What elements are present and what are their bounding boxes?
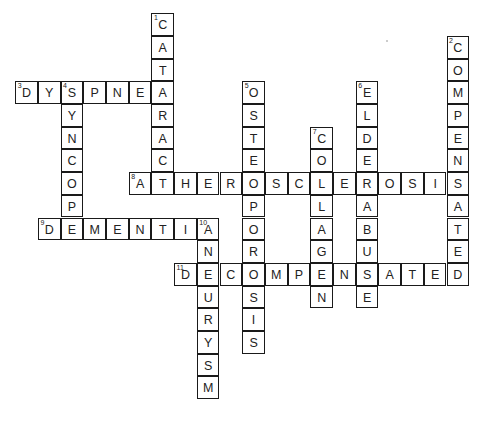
cell-letter: C [289,177,310,191]
crossword-cell[interactable]: P [83,81,106,104]
crossword-cell[interactable]: E [447,127,470,150]
crossword-cell[interactable]: 11D [174,263,197,286]
crossword-cell[interactable]: S [401,172,424,195]
crossword-cell[interactable]: I [174,218,197,241]
crossword-cell[interactable]: S [197,354,220,377]
crossword-cell[interactable]: T [151,218,174,241]
crossword-cell[interactable]: I [242,308,265,331]
crossword-cell[interactable]: A [447,195,470,218]
crossword-cell[interactable]: E [333,172,356,195]
crossword-cell[interactable]: N [310,286,333,309]
crossword-cell[interactable]: L [310,195,333,218]
crossword-cell[interactable]: E [356,149,379,172]
crossword-cell[interactable]: C [220,263,243,286]
crossword-cell[interactable]: E [242,149,265,172]
crossword-cell[interactable]: C [151,149,174,172]
crossword-cell[interactable]: R [356,172,379,195]
crossword-cell[interactable]: P [288,263,311,286]
crossword-cell[interactable]: A [151,81,174,104]
crossword-cell[interactable]: 2C [447,36,470,59]
crossword-cell[interactable]: S [242,331,265,354]
crossword-cell[interactable]: B [356,218,379,241]
crossword-cell[interactable]: A [310,218,333,241]
crossword-cell[interactable]: R [220,172,243,195]
crossword-cell[interactable]: Y [38,81,61,104]
crossword-cell[interactable]: E [129,81,152,104]
crossword-cell[interactable]: C [288,172,311,195]
crossword-cell[interactable]: O [310,149,333,172]
crossword-cell[interactable]: M [83,218,106,241]
crossword-cell[interactable]: Y [197,331,220,354]
crossword-cell[interactable]: S [356,263,379,286]
cell-letter: T [152,177,173,191]
crossword-cell[interactable]: M [197,376,220,399]
crossword-cell[interactable]: N [333,263,356,286]
crossword-cell[interactable]: A [151,36,174,59]
crossword-cell[interactable]: 4S [61,81,84,104]
crossword-cell[interactable]: 6E [356,81,379,104]
crossword-cell[interactable]: R [197,308,220,331]
crossword-cell[interactable]: L [356,104,379,127]
crossword-cell[interactable]: S [265,172,288,195]
crossword-cell[interactable]: E [197,263,220,286]
crossword-cell[interactable]: N [106,81,129,104]
crossword-cell[interactable]: A [378,263,401,286]
crossword-cell[interactable]: E [61,218,84,241]
crossword-cell[interactable]: S [242,286,265,309]
crossword-cell[interactable]: O [242,263,265,286]
crossword-cell[interactable]: Y [61,104,84,127]
cell-letter: C [62,154,83,168]
crossword-cell[interactable]: D [356,127,379,150]
crossword-cell[interactable]: R [242,240,265,263]
cell-letter: O [448,64,469,78]
crossword-cell[interactable]: O [61,172,84,195]
crossword-cell[interactable]: T [151,172,174,195]
crossword-cell[interactable]: E [310,263,333,286]
crossword-cell[interactable]: U [197,286,220,309]
crossword-cell[interactable]: E [356,286,379,309]
crossword-cell[interactable]: M [265,263,288,286]
crossword-cell[interactable]: I [424,172,447,195]
crossword-cell[interactable]: O [447,59,470,82]
crossword-cell[interactable]: E [197,172,220,195]
cell-letter: R [198,313,219,327]
crossword-cell[interactable]: A [356,195,379,218]
crossword-cell[interactable]: R [151,104,174,127]
cell-letter: D [448,268,469,282]
crossword-cell[interactable]: 3D [15,81,38,104]
crossword-cell[interactable]: 5O [242,81,265,104]
crossword-cell[interactable]: N [61,127,84,150]
crossword-cell[interactable]: A [151,127,174,150]
crossword-cell[interactable]: T [242,127,265,150]
cell-letter: S [243,109,264,123]
crossword-cell[interactable]: T [447,218,470,241]
crossword-cell[interactable]: N [197,240,220,263]
crossword-cell[interactable]: 1C [151,13,174,36]
crossword-cell[interactable]: O [378,172,401,195]
crossword-cell[interactable]: 10A [197,218,220,241]
crossword-cell[interactable]: L [310,172,333,195]
crossword-cell[interactable]: 8A [129,172,152,195]
crossword-cell[interactable]: G [310,240,333,263]
crossword-cell[interactable]: 9D [38,218,61,241]
crossword-cell[interactable]: 7C [310,127,333,150]
crossword-cell[interactable]: S [242,104,265,127]
crossword-cell[interactable]: T [401,263,424,286]
crossword-cell[interactable]: O [242,172,265,195]
crossword-cell[interactable]: H [174,172,197,195]
crossword-cell[interactable]: P [242,195,265,218]
crossword-cell[interactable]: S [447,172,470,195]
crossword-cell[interactable]: M [447,81,470,104]
crossword-cell[interactable]: P [61,195,84,218]
crossword-cell[interactable]: U [356,240,379,263]
crossword-cell[interactable]: N [129,218,152,241]
crossword-cell[interactable]: D [447,263,470,286]
crossword-cell[interactable]: N [447,149,470,172]
crossword-cell[interactable]: O [242,218,265,241]
crossword-cell[interactable]: E [106,218,129,241]
crossword-cell[interactable]: E [424,263,447,286]
crossword-cell[interactable]: E [447,240,470,263]
crossword-cell[interactable]: T [151,59,174,82]
crossword-cell[interactable]: P [447,104,470,127]
crossword-cell[interactable]: C [61,149,84,172]
